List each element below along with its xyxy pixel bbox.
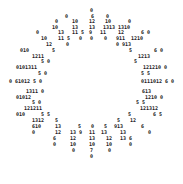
number-label: 0	[32, 130, 35, 135]
number-label: 121211	[24, 106, 42, 111]
number-label: 5 5	[141, 71, 150, 76]
number-label: 6 0	[154, 48, 163, 53]
number-label: 0	[104, 36, 107, 41]
number-label: 0	[108, 148, 111, 153]
number-label: 5 0	[41, 59, 50, 64]
number-label: 1213	[138, 54, 150, 59]
number-label: 12	[130, 118, 136, 123]
number-label: 5	[129, 48, 132, 53]
number-label: 0	[129, 142, 132, 147]
number-label: 0	[90, 154, 93, 159]
number-label: 0	[116, 42, 119, 47]
number-label: 0	[148, 130, 151, 135]
number-label: 01012	[16, 95, 31, 100]
number-label: 0111012 6 0	[141, 79, 174, 84]
number-label: 0	[53, 142, 56, 147]
number-label: 6 5	[153, 112, 162, 117]
number-label: 5	[134, 59, 137, 64]
number-label: 010	[16, 112, 25, 117]
number-label: 0	[36, 30, 39, 35]
number-label: 010	[20, 48, 29, 53]
number-label: 0	[72, 148, 75, 153]
number-label: 5	[52, 48, 55, 53]
number-label: 5 0	[38, 71, 47, 76]
number-label: 0	[90, 36, 93, 41]
number-label: 1210	[131, 36, 143, 41]
number-label: 0 61012 5 0	[9, 79, 42, 84]
number-ring-canvas: 0060010121001013131313131001311 5911126 …	[0, 0, 183, 184]
number-label: 0101311	[16, 65, 37, 70]
number-label: 1210 0	[145, 95, 163, 100]
number-label: 0	[65, 14, 68, 19]
number-label: 0	[79, 36, 82, 41]
number-label: 0	[66, 42, 69, 47]
number-label: 6	[141, 124, 144, 129]
